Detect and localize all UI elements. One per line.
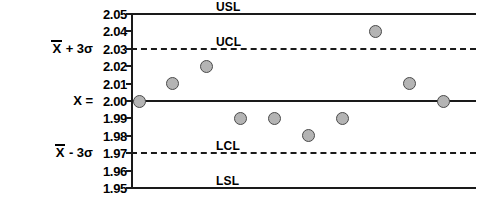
limit-line-ucl (131, 48, 476, 50)
limit-label-lsl: LSL (216, 175, 239, 187)
limit-label-lcl: LCL (216, 140, 240, 152)
y-axis-tick (126, 30, 132, 32)
data-point (302, 129, 315, 142)
x-bar-lower: X (55, 146, 66, 159)
y-tick-label: 2.03 (83, 43, 127, 56)
limit-line-lsl (131, 187, 476, 189)
data-point (336, 112, 349, 125)
y-axis-tick (126, 83, 132, 85)
y-axis-tick (126, 117, 132, 119)
data-point (369, 25, 382, 38)
y-tick-label: 1.95 (83, 182, 127, 195)
data-point (268, 112, 281, 125)
limit-line-lcl (131, 152, 476, 154)
data-point (437, 95, 450, 108)
data-point (133, 95, 146, 108)
y-tick-label: 1.97 (83, 147, 127, 160)
y-axis-tick (126, 65, 132, 67)
data-point (200, 60, 213, 73)
limit-label-ucl: UCL (216, 36, 241, 48)
y-tick-label: 2.04 (83, 25, 127, 38)
control-chart: X + 3σ X = X - 3σ 2.052.042.032.022.012.… (0, 0, 483, 202)
limit-label-usl: USL (216, 1, 241, 13)
data-point (234, 112, 247, 125)
y-tick-label: 1.96 (83, 165, 127, 178)
data-point (166, 77, 179, 90)
limit-line-usl (131, 13, 476, 15)
limit-line-center (131, 100, 476, 102)
y-tick-label: 2.02 (83, 60, 127, 73)
y-tick-label: 1.98 (83, 130, 127, 143)
x-bar-upper: X (51, 42, 62, 55)
data-point (403, 77, 416, 90)
y-axis-tick (126, 170, 132, 172)
y-tick-label: 2.05 (83, 8, 127, 21)
y-axis-tick (126, 135, 132, 137)
plot-area: USLUCLLCLLSL (131, 14, 476, 188)
y-tick-label: 2.01 (83, 78, 127, 91)
y-tick-label: 1.99 (83, 112, 127, 125)
y-tick-label: 2.00 (83, 95, 127, 108)
